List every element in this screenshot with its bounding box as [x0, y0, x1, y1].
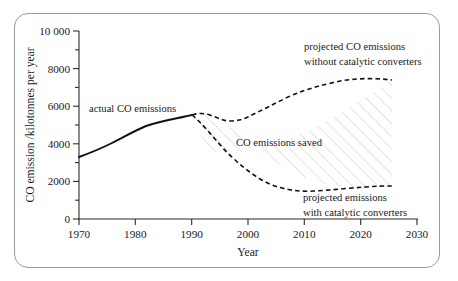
- x-tick-label-2010: 2010: [293, 228, 316, 240]
- annotation-projected-with-line2: with catalytic converters: [303, 207, 407, 218]
- y-tick-label-10000: 10 000: [39, 25, 70, 37]
- y-tick-label-6000: 6000: [48, 100, 71, 112]
- chart-canvas: 0 2000 4000 6000 8000 10 000 1970 1980 1…: [0, 0, 458, 281]
- x-tick-label-2020: 2020: [350, 228, 373, 240]
- annotation-projected-with-line1: projected emissions: [303, 192, 387, 203]
- series-actual-co-emissions: [79, 115, 192, 157]
- y-axis-ticks: [73, 31, 79, 219]
- y-tick-label-4000: 4000: [48, 138, 71, 150]
- x-tick-label-2030: 2030: [406, 228, 429, 240]
- y-tick-label-2000: 2000: [48, 175, 71, 187]
- annotation-projected-without-line2: without catalytic converters: [304, 56, 422, 67]
- annotation-actual-emissions: actual CO emissions: [89, 103, 176, 114]
- x-tick-label-1990: 1990: [181, 228, 204, 240]
- x-axis-title: Year: [237, 246, 259, 259]
- y-tick-label-8000: 8000: [48, 63, 71, 75]
- annotation-emissions-saved: CO emissions saved: [236, 137, 323, 148]
- emissions-saved-region: [192, 80, 392, 187]
- x-tick-label-2000: 2000: [237, 228, 260, 240]
- x-axis-ticks: [79, 219, 417, 225]
- x-tick-label-1970: 1970: [68, 228, 91, 240]
- y-tick-label-0: 0: [64, 213, 70, 225]
- x-tick-label-1980: 1980: [124, 228, 147, 240]
- annotation-projected-without-line1: projected CO emissions: [304, 41, 405, 52]
- figure-container: 0 2000 4000 6000 8000 10 000 1970 1980 1…: [0, 0, 458, 281]
- y-axis-title: CO emission /kilotonnes per year: [24, 47, 37, 202]
